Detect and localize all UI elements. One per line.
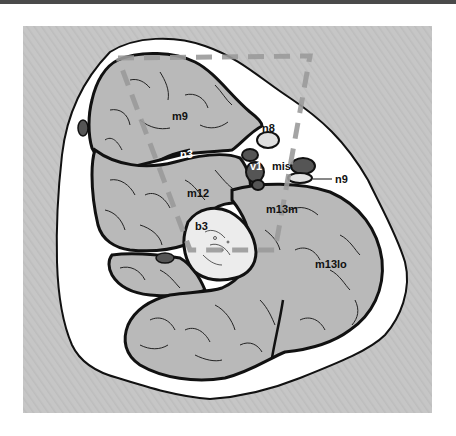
anatomical-cross-section-diagram: m9 n8 n3 v1 mis n9 m12 m13m b3 m13lo <box>0 0 456 436</box>
label-m13m: m13m <box>266 203 298 215</box>
label-n8: n8 <box>262 122 275 134</box>
label-v1: v1 <box>250 160 262 172</box>
label-n9: n9 <box>335 173 348 185</box>
label-m12: m12 <box>187 187 209 199</box>
label-m13lo: m13lo <box>315 258 347 270</box>
label-b3: b3 <box>195 220 208 232</box>
label-mis: mis <box>272 160 291 172</box>
label-m9: m9 <box>172 110 188 122</box>
label-n3: n3 <box>180 148 193 160</box>
